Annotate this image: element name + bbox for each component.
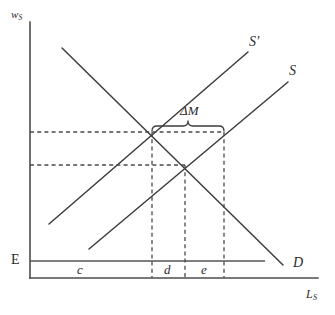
y-axis-label-base: w xyxy=(11,8,19,20)
supply-demand-figure: wS LS E S' S D ΔM c d e xyxy=(0,0,335,315)
x-axis-label: LS xyxy=(306,288,317,302)
region-label-c: c xyxy=(77,263,83,276)
delta-m-brace xyxy=(152,121,224,131)
demand-curve xyxy=(62,48,283,265)
x-axis-label-subscript: S xyxy=(313,293,317,302)
x-axis-label-base: L xyxy=(306,287,313,301)
y-axis-label: wS xyxy=(11,9,22,22)
delta-m-label: ΔM xyxy=(180,104,199,117)
supply-shifted-curve-label: S' xyxy=(249,35,259,49)
demand-curve-label: D xyxy=(293,256,303,270)
y-axis-label-subscript: S xyxy=(19,13,23,22)
supply-curve-label: S xyxy=(289,64,296,78)
region-label-d: d xyxy=(164,263,171,276)
region-label-e: e xyxy=(201,263,207,276)
subsistence-level-label: E xyxy=(11,253,20,267)
